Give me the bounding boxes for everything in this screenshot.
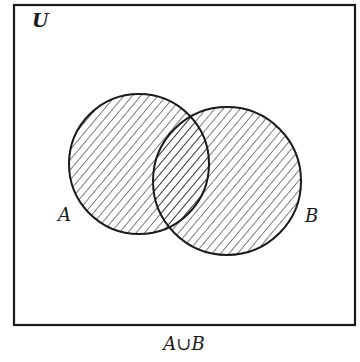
- caption: A∪B: [161, 333, 204, 354]
- venn-diagram: U A B A∪B: [0, 0, 360, 362]
- set-b-label: B: [304, 205, 318, 226]
- set-a-label: A: [56, 204, 71, 225]
- universe-label: U: [32, 9, 50, 31]
